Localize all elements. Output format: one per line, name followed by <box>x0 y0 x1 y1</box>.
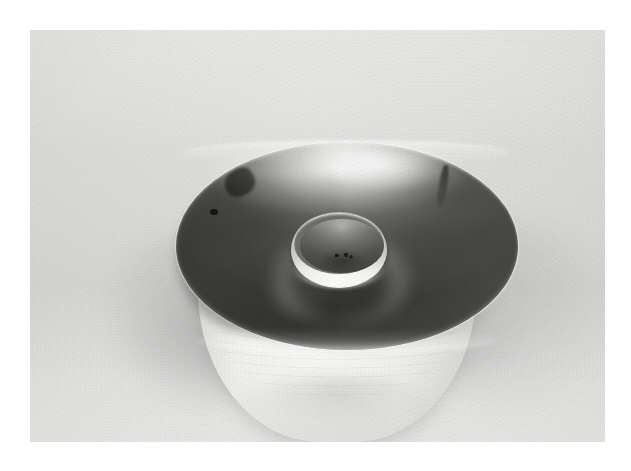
central-well <box>291 212 387 288</box>
bowl-foot-shading <box>238 376 438 442</box>
well-rim <box>294 214 384 274</box>
photograph <box>30 30 605 442</box>
well-recess-shading <box>300 219 384 273</box>
screenshot-canvas <box>0 0 631 471</box>
well-recess <box>300 219 384 273</box>
well-debris-specks <box>332 252 354 258</box>
